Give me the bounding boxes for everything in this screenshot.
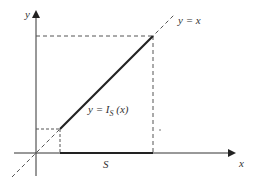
function-graph-segment [60, 36, 153, 129]
set-s-label: S [103, 158, 109, 170]
function-label-suffix: (x) [113, 103, 128, 116]
x-axis-label: x [238, 157, 244, 169]
dot-mark [159, 129, 160, 130]
y-axis-label: y [24, 8, 30, 20]
function-label-prefix: y = I [87, 103, 111, 115]
identity-line-label: y = x [177, 14, 201, 26]
identity-function-diagram: y x y = x y = IS (x) S [0, 0, 258, 183]
function-label: y = IS (x) [87, 103, 129, 118]
